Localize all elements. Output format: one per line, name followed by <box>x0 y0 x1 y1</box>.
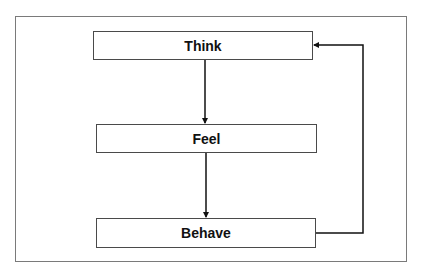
node-behave: Behave <box>96 218 316 248</box>
node-think: Think <box>93 31 313 60</box>
node-behave-label: Behave <box>181 225 231 241</box>
node-feel-label: Feel <box>192 131 220 147</box>
node-feel: Feel <box>96 124 317 153</box>
node-think-label: Think <box>184 38 221 54</box>
